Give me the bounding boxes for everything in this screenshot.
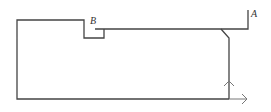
label-a: A (250, 8, 258, 19)
label-b: B (90, 15, 96, 26)
part-outline (17, 20, 229, 99)
top-contour (95, 10, 248, 29)
part-profile-diagram: B A (0, 0, 271, 112)
chamfer-edge (221, 29, 229, 99)
